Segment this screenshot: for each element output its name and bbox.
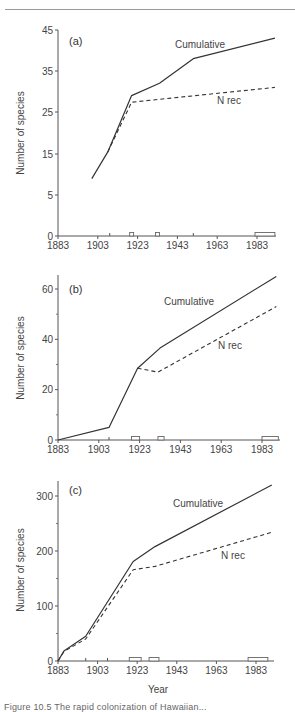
panel-a-cumulative-label: Cumulative bbox=[175, 39, 225, 50]
y-tick-label: 20 bbox=[42, 384, 54, 395]
x-tick-label: 1963 bbox=[205, 665, 228, 676]
axis-marker-box bbox=[130, 233, 134, 237]
x-tick-label: 1983 bbox=[246, 240, 269, 251]
x-tick-label: 1943 bbox=[166, 665, 189, 676]
x-tick-label: 1903 bbox=[86, 665, 109, 676]
panel-b-nrec-label: N rec bbox=[218, 340, 242, 351]
panel-a-y-axis-label: Number of species bbox=[15, 91, 26, 174]
y-tick-label: 5 bbox=[47, 190, 53, 201]
nrec-line bbox=[138, 307, 277, 373]
axis-marker-box bbox=[248, 658, 268, 662]
panel-a-plot bbox=[92, 38, 275, 178]
axis-marker-box bbox=[262, 437, 278, 441]
panel-c: (c) Cumulative N rec Number of species Y… bbox=[15, 481, 274, 695]
y-tick-label: 40 bbox=[42, 334, 54, 345]
x-tick-label: 1883 bbox=[47, 665, 70, 676]
panel-b: (b) Cumulative N rec Number of species 0… bbox=[15, 275, 280, 455]
panel-c-y-axis-label: Number of species bbox=[15, 528, 26, 611]
figure-caption: Figure 10.5 The rapid colonization of Ha… bbox=[4, 702, 207, 712]
panel-c-axes: 0100200300188319031923194319631983 bbox=[36, 481, 274, 676]
x-tick-label: 1883 bbox=[47, 240, 70, 251]
panel-a: (a) Cumulative N rec Number of species 0… bbox=[15, 25, 276, 252]
axis-marker-box bbox=[158, 437, 164, 441]
nrec-line bbox=[108, 87, 275, 151]
x-tick-label: 1923 bbox=[128, 444, 151, 455]
x-tick-label: 1923 bbox=[126, 240, 149, 251]
panel-c-cumulative-label: Cumulative bbox=[173, 498, 223, 509]
cumulative-line bbox=[92, 38, 275, 178]
y-tick-label: 300 bbox=[36, 491, 53, 502]
panel-c-plot bbox=[58, 485, 272, 661]
panel-b-axes: 0204060188319031923194319631983 bbox=[42, 275, 280, 455]
y-tick-label: 60 bbox=[42, 284, 54, 295]
y-tick-label: 45 bbox=[42, 25, 54, 36]
panel-b-tag: (b) bbox=[69, 283, 82, 295]
axis-marker-box bbox=[149, 658, 159, 662]
x-tick-label: 1963 bbox=[210, 444, 233, 455]
x-tick-label: 1943 bbox=[166, 240, 189, 251]
x-tick-label: 1903 bbox=[87, 240, 110, 251]
axis-marker-box bbox=[156, 233, 160, 237]
x-tick-label: 1923 bbox=[126, 665, 149, 676]
y-tick-label: 35 bbox=[42, 66, 54, 77]
figure-svg: (a) Cumulative N rec Number of species 0… bbox=[0, 0, 295, 712]
y-tick-label: 15 bbox=[42, 149, 54, 160]
panel-a-axes: 0515253545188319031923194319631983 bbox=[42, 25, 276, 252]
panel-b-cumulative-label: Cumulative bbox=[164, 296, 214, 307]
panel-c-x-axis-label: Year bbox=[148, 684, 169, 695]
cumulative-line bbox=[58, 485, 272, 661]
panel-a-tag: (a) bbox=[69, 35, 82, 47]
x-tick-label: 1963 bbox=[206, 240, 229, 251]
panel-a-nrec-label: N rec bbox=[217, 95, 241, 106]
x-tick-label: 1983 bbox=[245, 665, 268, 676]
axis-marker-box bbox=[255, 233, 275, 237]
y-tick-label: 25 bbox=[42, 107, 54, 118]
x-tick-label: 1983 bbox=[251, 444, 274, 455]
panel-c-tag: (c) bbox=[69, 484, 82, 496]
y-tick-label: 200 bbox=[36, 546, 53, 557]
x-tick-label: 1883 bbox=[47, 444, 70, 455]
axis-marker-box bbox=[131, 437, 139, 441]
x-tick-label: 1903 bbox=[88, 444, 111, 455]
x-tick-label: 1943 bbox=[169, 444, 192, 455]
panel-b-y-axis-label: Number of species bbox=[15, 316, 26, 399]
panel-c-nrec-label: N rec bbox=[221, 550, 245, 561]
axis-marker-box bbox=[129, 658, 141, 662]
y-tick-label: 100 bbox=[36, 601, 53, 612]
